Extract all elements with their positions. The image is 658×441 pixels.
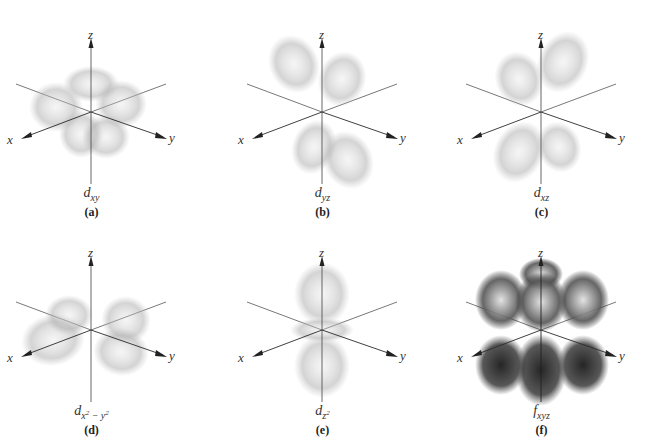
x-axis-label: x [457,351,463,364]
y-arrow-icon [605,350,617,357]
orbital-label: dxz [432,186,651,203]
y-arrow-icon [155,132,167,139]
z-axis-label: z [88,28,93,41]
orbital-subscript: xyz [537,410,550,421]
x-axis-label: x [7,351,13,364]
orbital-letter: d [84,185,91,200]
orbital-subscript: x2 − y2 [81,410,109,421]
orbital-label: dxy [0,186,201,203]
orbital-lobes [29,66,147,159]
orbital-subscript: yz [322,192,330,203]
x-arrow-icon [252,132,263,139]
orbital-letter: d [534,185,541,200]
x-arrow-icon [21,132,32,139]
panel-b: zxydyz(b) [231,0,450,220]
z-axis-label: z [319,246,324,259]
panel-f: zxyfxyz(f) [450,218,658,438]
orbital-letter: d [315,185,322,200]
panel-a: zxydxy(a) [0,0,219,220]
z-axis-label: z [319,28,324,41]
panel-d: zxydx2 − y2(d) [0,218,219,438]
z-axis-label: z [538,246,543,259]
orbital-subscript: xy [91,192,100,203]
panel-c: zxydxz(c) [450,0,658,220]
orbital-label: fxyz [432,404,651,421]
x-arrow-icon [471,132,482,139]
panel-letter: (d) [0,423,201,438]
x-axis-label: x [457,133,463,146]
y-axis-label: y [619,131,625,144]
orbital-label: dz2 [213,404,432,421]
y-arrow-icon [155,350,167,357]
y-arrow-icon [386,132,398,139]
orbital-label: dx2 − y2 [0,404,201,421]
y-axis-label: y [169,349,175,362]
z-axis-label: z [538,28,543,41]
orbital-lobes [475,258,609,406]
orbital-lobes [17,289,158,381]
x-arrow-icon [252,350,263,357]
panel-letter: (f) [432,423,651,438]
y-axis-label: y [169,131,175,144]
panel-letter: (e) [213,423,432,438]
y-axis-label: y [400,131,406,144]
y-arrow-icon [605,132,617,139]
orbital-subscript: xz [541,192,549,203]
y-axis-label: y [619,349,625,362]
panel-e: zxydz2(e) [231,218,450,438]
y-axis-label: y [400,349,406,362]
x-axis-label: x [7,133,13,146]
x-axis-label: x [238,133,244,146]
x-axis-label: x [238,351,244,364]
orbital-subscript: z2 [322,410,329,421]
orbital-label: dyz [213,186,432,203]
y-arrow-icon [386,350,398,357]
z-axis-label: z [88,246,93,259]
